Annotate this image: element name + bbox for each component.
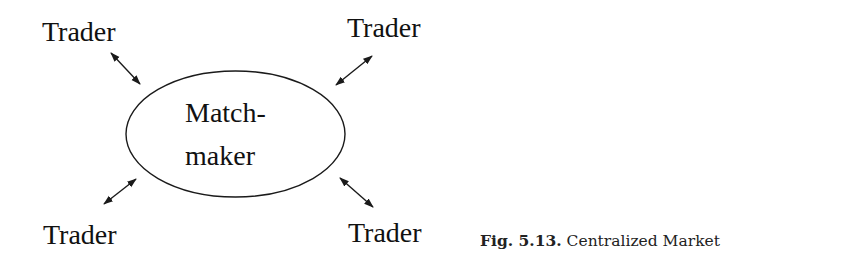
trader-bottom-right: Trader — [348, 219, 422, 247]
matchmaker-label-line2: maker — [185, 142, 255, 170]
matchmaker-label-line1: Match- — [185, 99, 266, 127]
figure-caption: Fig. 5.13. Centralized Market — [480, 231, 720, 250]
matchmaker-ellipse — [126, 71, 345, 197]
figure-number: Fig. 5.13. — [480, 231, 562, 250]
arrow-top-left — [111, 53, 140, 84]
figure-title: Centralized Market — [567, 232, 720, 250]
arrow-top-right — [336, 56, 372, 85]
trader-top-right: Trader — [347, 14, 421, 42]
arrow-bottom-right — [340, 178, 373, 207]
diagram-canvas — [0, 0, 845, 265]
trader-bottom-left: Trader — [43, 221, 117, 249]
trader-top-left: Trader — [42, 18, 116, 46]
arrow-bottom-left — [104, 179, 136, 204]
